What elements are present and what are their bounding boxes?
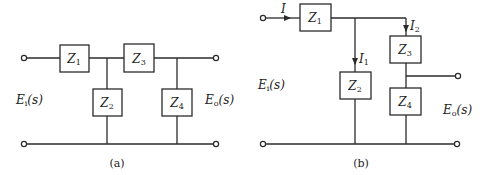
diagram-b: Z1 Z2 Z3 Z4 I I1 I2 Ei(s)	[257, 2, 472, 170]
output-voltage-label: Eo(s)	[204, 93, 234, 108]
input-voltage-label: Ei(s)	[257, 78, 285, 93]
output-terminal-top	[455, 73, 460, 78]
output-terminal-bottom	[213, 141, 218, 146]
input-terminal-bottom	[21, 141, 26, 146]
output-voltage-label: Eo(s)	[442, 103, 472, 118]
input-terminal-bottom	[260, 141, 265, 146]
diagram-a: Z1 Z3 Z2 Z4 Ei(s) Eo(s) (a)	[15, 44, 234, 170]
output-terminal-bottom	[454, 141, 459, 146]
current-label-i2: I2	[409, 19, 420, 34]
input-terminal-top	[21, 55, 26, 60]
circuit-diagrams: Z1 Z3 Z2 Z4 Ei(s) Eo(s) (a) Z1 Z2	[0, 0, 489, 175]
current-label-i1: I1	[358, 52, 369, 67]
output-terminal-top	[213, 55, 218, 60]
caption-a: (a)	[109, 157, 124, 170]
input-terminal-top	[260, 15, 265, 20]
input-voltage-label: Ei(s)	[15, 93, 43, 108]
caption-b: (b)	[353, 157, 369, 170]
current-label-i: I	[280, 2, 286, 16]
